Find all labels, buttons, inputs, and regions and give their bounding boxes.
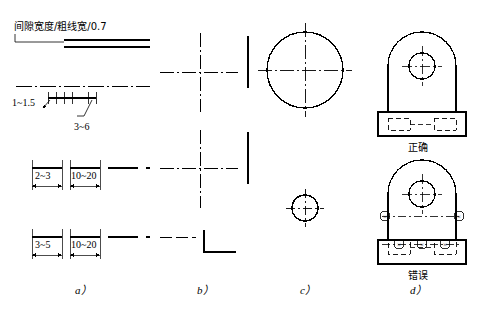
caption-d: d）	[410, 285, 427, 296]
svg-text:×: ×	[420, 241, 424, 249]
dimension-2-3: 2~3	[35, 171, 50, 181]
panel-d-correct-part	[378, 32, 466, 136]
figure-canvas: × × × × × 间隙宽度/粗线宽/0.7 1~1.5 3~6 2~3 10~…	[0, 0, 493, 312]
panel-a-leader-1-1_5	[43, 100, 50, 108]
panel-a-leader	[15, 34, 64, 42]
panel-a-dash-detail	[48, 92, 96, 104]
svg-text:×: ×	[397, 241, 401, 249]
caption-a: a）	[75, 285, 92, 296]
panel-c-large-circle	[258, 23, 352, 117]
dimension-10-20-row3: 10~20	[71, 240, 96, 250]
panel-c-small-circle	[286, 189, 324, 227]
panel-a-thick-lines	[64, 40, 150, 47]
dimension-1-1_5: 1~1.5	[12, 98, 35, 108]
dimension-10-20-row2: 10~20	[71, 171, 96, 181]
panel-b-cross-top	[160, 33, 248, 112]
panel-b-cross-bottom	[160, 130, 248, 208]
caption-c: c）	[300, 285, 316, 296]
svg-text:×: ×	[457, 213, 461, 221]
caption-b: b）	[197, 285, 214, 296]
label-wrong: 错误	[408, 271, 428, 281]
panel-a-leader-3-6	[77, 100, 92, 116]
svg-text:×: ×	[383, 213, 387, 221]
dimension-3-5: 3~5	[35, 240, 50, 250]
technical-drawing-svg: × × × × ×	[0, 0, 493, 312]
panel-a-note: 间隙宽度/粗线宽/0.7	[14, 22, 107, 32]
svg-text:×: ×	[443, 241, 447, 249]
dimension-3-6: 3~6	[74, 122, 89, 132]
label-correct: 正确	[408, 143, 428, 153]
panel-b-corner	[160, 230, 236, 252]
